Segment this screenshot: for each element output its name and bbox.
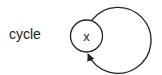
cycle-diagram: x — [0, 0, 162, 75]
node-label: x — [83, 29, 90, 44]
node-x: x — [71, 20, 103, 52]
